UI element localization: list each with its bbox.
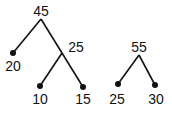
- edge-25-10: [40, 53, 62, 86]
- leaf-dot-10: [37, 83, 43, 89]
- tree-diagram: 45 20 25 10 15 55 25 30: [0, 0, 172, 116]
- node-label-leaf: 30: [148, 91, 164, 107]
- tree-1: 45 20 25 10 15: [5, 3, 91, 107]
- leaf-dot-25: [115, 81, 121, 87]
- leaf-dot-30: [152, 82, 158, 88]
- node-label-leaf: 25: [109, 91, 125, 107]
- leaf-dot-20: [10, 50, 16, 56]
- node-label-leaf: 15: [75, 91, 91, 107]
- node-label-inner: 25: [68, 39, 84, 55]
- tree-2: 55 25 30: [109, 39, 164, 107]
- node-label-leaf: 10: [32, 91, 48, 107]
- node-label-root: 55: [131, 39, 147, 55]
- node-label-leaf: 20: [5, 58, 21, 74]
- node-label-root: 45: [33, 3, 49, 19]
- leaf-dot-15: [80, 84, 86, 90]
- edge-55-25: [118, 55, 139, 84]
- edge-55-30: [139, 55, 155, 85]
- edge-45-20: [13, 19, 41, 53]
